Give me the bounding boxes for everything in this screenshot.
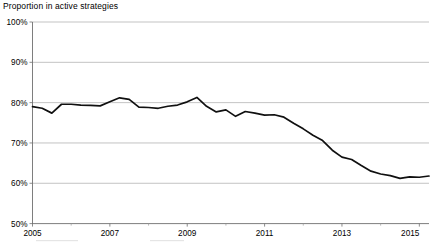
y-axis-tick-label: 70% xyxy=(11,139,27,148)
y-axis-tick-label: 90% xyxy=(11,58,27,67)
x-axis-tick-label: 2009 xyxy=(178,229,197,238)
x-axis-tick-label: 2015 xyxy=(401,229,420,238)
line-chart-plot: 50%60%70%80%90%100% 20052007200920112013… xyxy=(0,0,432,249)
x-axis-tick-label: 2005 xyxy=(23,229,42,238)
scan-artifact xyxy=(36,240,78,241)
y-axis-tick-label: 100% xyxy=(7,18,28,27)
chart-container: Proportion in active strategies 50%60%70… xyxy=(0,0,432,249)
y-axis-tick-labels: 50%60%70%80%90%100% xyxy=(7,18,28,229)
x-axis-tick-label: 2011 xyxy=(256,229,274,238)
y-axis-tick-label: 80% xyxy=(11,99,27,108)
y-axis-tick-label: 60% xyxy=(11,179,27,188)
data-series-line-active-strategies xyxy=(33,97,430,178)
x-axis-tick-label: 2007 xyxy=(101,229,120,238)
x-axis-tick-labels: 200520072009201120132015 xyxy=(23,229,419,238)
y-axis-tick-label: 50% xyxy=(11,220,27,229)
x-axis-tick-label: 2013 xyxy=(333,229,352,238)
scan-artifact xyxy=(150,240,184,241)
gridlines xyxy=(33,22,430,183)
